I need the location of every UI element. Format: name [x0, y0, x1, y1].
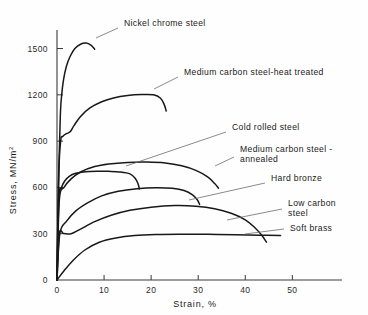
x-tick-label-30: 30	[193, 285, 203, 295]
x-tick-label-40: 40	[240, 285, 250, 295]
curve-soft-brass	[57, 234, 281, 280]
x-tick-label-50: 50	[287, 285, 297, 295]
annotation-annealed: annealed	[240, 154, 278, 164]
y-tick-label-300: 300	[33, 229, 48, 239]
x-tick-label-20: 20	[146, 285, 156, 295]
annotation-soft-brass: Soft brass	[290, 223, 332, 233]
annotation-cold-rolled-steel: Cold rolled steel	[232, 122, 300, 132]
stress-strain-chart: 01020304050030060090012001500Strain, %St…	[0, 0, 368, 315]
annotation-medium-carbon-steel: Medium carbon steel -	[240, 144, 332, 154]
x-tick-label-0: 0	[54, 285, 59, 295]
annotation-low-carbon: Low carbon	[288, 198, 336, 208]
leader-cold-rolled-steel	[126, 132, 226, 166]
y-tick-label-1200: 1200	[27, 90, 48, 100]
x-tick-label-10: 10	[99, 285, 109, 295]
annotation-medium-carbon-steel-heat-treated: Medium carbon steel-heat treated	[184, 67, 324, 77]
curve-nickel-chrome-steel	[57, 43, 95, 280]
leader-hard-bronze	[189, 183, 265, 200]
leader-soft-brass	[245, 229, 284, 234]
chart-canvas: 01020304050030060090012001500Strain, %St…	[0, 0, 368, 315]
leader-nickel-chrome-steel	[96, 28, 118, 38]
y-tick-label-600: 600	[33, 182, 48, 192]
curve-cold-rolled-steel	[57, 162, 218, 280]
annotation-steel: steel	[288, 208, 308, 218]
y-tick-label-0: 0	[43, 275, 48, 285]
y-tick-label-1500: 1500	[27, 44, 48, 54]
y-axis-title: Stress, MN/m2	[8, 146, 18, 214]
leader-medium-carbon-steel-heat-treated	[154, 77, 178, 89]
annotation-nickel-chrome-steel: Nickel chrome steel	[124, 18, 206, 28]
x-axis-title: Strain, %	[173, 299, 217, 309]
y-tick-label-900: 900	[33, 136, 48, 146]
curve-low-carbon-steel	[57, 206, 266, 280]
annotation-hard-bronze: Hard bronze	[271, 173, 322, 183]
leader-medium-carbon-steel	[215, 157, 234, 166]
